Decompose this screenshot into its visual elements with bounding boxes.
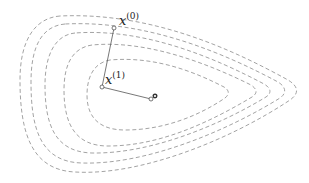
optimization-path [102,28,151,99]
iterate-x1-point [100,85,104,89]
minimum-point [153,94,157,98]
iterate-x2-point [149,97,153,101]
iterate-x0-point [112,26,116,30]
x0-label: x(0) [119,11,139,28]
x1-label: x(1) [105,70,125,87]
contour-level-4 [31,24,285,163]
contour-level-1 [87,59,228,130]
contour-diagram: x(0) x(1) [0,0,309,183]
